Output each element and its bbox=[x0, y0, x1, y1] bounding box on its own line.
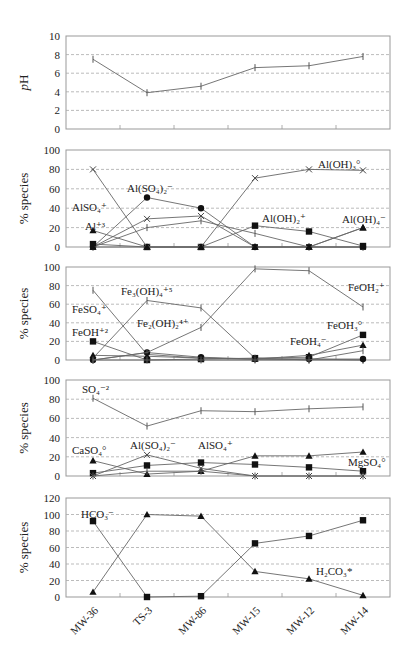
series-line bbox=[93, 290, 363, 360]
species-label: Al(SO₄)₂⁻ bbox=[127, 182, 173, 195]
species-label: Al(SO₄)₂⁻ bbox=[130, 439, 176, 452]
y-tick-label: 40 bbox=[49, 202, 61, 214]
species-label: AlSO₄⁺ bbox=[72, 201, 107, 213]
species-label: FeOH₄⁻ bbox=[290, 335, 327, 347]
x-category-label: MW-12 bbox=[284, 604, 317, 637]
triangle-marker bbox=[89, 588, 96, 594]
square-marker bbox=[252, 461, 258, 467]
y-axis-label: % species bbox=[16, 173, 31, 225]
y-tick-label: 100 bbox=[44, 374, 61, 386]
species-label: FeOH₃° bbox=[327, 319, 362, 331]
y-tick-label: 80 bbox=[49, 393, 61, 405]
species-label: SO₄⁻² bbox=[82, 383, 110, 395]
square-marker bbox=[306, 228, 312, 234]
species-label: HCO₃⁻ bbox=[81, 508, 114, 520]
species-label: Al(OH)₄⁻ bbox=[342, 213, 386, 226]
series-line bbox=[93, 515, 363, 596]
y-tick-label: 20 bbox=[49, 451, 61, 463]
panel-carbonate: 020406080100120% speciesHCO₃⁻H₂CO₃* bbox=[16, 492, 390, 603]
y-axis-label: % species bbox=[16, 522, 31, 574]
triangle-marker bbox=[143, 511, 150, 517]
species-label: CaSO₄° bbox=[72, 444, 107, 456]
species-label: Al(OH)₂⁺ bbox=[262, 212, 306, 225]
triangle-marker bbox=[359, 448, 366, 454]
y-tick-label: 80 bbox=[49, 163, 61, 175]
series-line bbox=[93, 463, 363, 474]
x-category-label: TS-3 bbox=[130, 604, 154, 628]
y-tick-label: 20 bbox=[49, 575, 61, 587]
y-tick-label: 0 bbox=[55, 354, 61, 366]
y-tick-label: 8 bbox=[55, 49, 61, 61]
series-also4- bbox=[93, 468, 363, 480]
panel-ph: 0246810pH bbox=[16, 30, 390, 135]
square-marker bbox=[360, 332, 366, 338]
y-tick-label: 60 bbox=[49, 542, 61, 554]
series-hco3- bbox=[90, 517, 366, 600]
series-line bbox=[93, 300, 363, 360]
square-marker bbox=[198, 459, 204, 465]
x-marker bbox=[90, 166, 96, 172]
series-line bbox=[93, 56, 363, 92]
y-tick-label: 80 bbox=[49, 280, 61, 292]
y-tick-label: 100 bbox=[44, 261, 61, 273]
y-axis-label: pH bbox=[16, 75, 31, 92]
y-tick-label: 100 bbox=[44, 509, 61, 521]
series-ph bbox=[93, 53, 363, 96]
x-category-label: MW-15 bbox=[230, 604, 263, 637]
square-marker bbox=[306, 464, 312, 470]
species-label: Al⁺³ bbox=[85, 220, 106, 232]
triangle-marker bbox=[89, 457, 96, 463]
species-label: Fe₂(OH)₂⁴⁺ bbox=[137, 317, 189, 330]
series-so4-2 bbox=[93, 395, 363, 430]
y-tick-label: 40 bbox=[49, 432, 61, 444]
y-tick-label: 0 bbox=[55, 470, 61, 482]
square-marker bbox=[90, 338, 96, 344]
y-tick-label: 20 bbox=[49, 335, 61, 347]
x-category-label: MW-36 bbox=[68, 604, 101, 637]
y-tick-label: 60 bbox=[49, 183, 61, 195]
x-category-label: MW-14 bbox=[338, 604, 371, 637]
square-marker bbox=[306, 533, 312, 539]
square-marker bbox=[144, 462, 150, 468]
species-label: FeSO₄⁺ bbox=[72, 303, 107, 315]
plot-frame bbox=[66, 36, 390, 129]
y-tick-label: 2 bbox=[55, 104, 61, 116]
panel-iron: 020406080100% speciesFe₃(OH)₄⁺⁵FeSO₄⁺Fe₂… bbox=[16, 261, 390, 366]
series-line bbox=[93, 520, 363, 597]
square-marker bbox=[198, 593, 204, 599]
y-tick-label: 4 bbox=[55, 86, 61, 98]
plot-frame bbox=[66, 267, 390, 360]
square-marker bbox=[360, 517, 366, 523]
speciation-chart: 0246810pH020406080100% speciesAl(SO₄)₂⁻A… bbox=[0, 0, 413, 660]
species-label: FeOH₂⁺ bbox=[348, 281, 385, 293]
series-line bbox=[93, 398, 363, 426]
circle-marker bbox=[198, 205, 204, 211]
series-fe3-oh-4-5 bbox=[93, 297, 363, 364]
x-category-label: MW-86 bbox=[176, 604, 209, 637]
panel-aluminum: 020406080100% speciesAl(SO₄)₂⁻AlSO₄⁺Al⁺³… bbox=[16, 144, 390, 253]
y-tick-label: 100 bbox=[44, 144, 61, 156]
plot-frame bbox=[66, 380, 390, 476]
square-marker bbox=[252, 222, 258, 228]
triangle-marker bbox=[359, 342, 366, 348]
y-tick-label: 80 bbox=[49, 525, 61, 537]
y-tick-label: 0 bbox=[55, 123, 61, 135]
circle-marker bbox=[360, 356, 366, 362]
y-tick-label: 120 bbox=[44, 492, 61, 504]
species-label: H₂CO₃* bbox=[316, 565, 352, 577]
series-line bbox=[93, 198, 363, 247]
species-label: MgSO₄° bbox=[348, 456, 386, 468]
y-tick-label: 6 bbox=[55, 67, 61, 79]
y-tick-label: 0 bbox=[55, 241, 61, 253]
chart-canvas: 0246810pH020406080100% speciesAl(SO₄)₂⁻A… bbox=[0, 0, 413, 660]
circle-marker bbox=[144, 194, 150, 200]
species-label: Fe₃(OH)₄⁺⁵ bbox=[121, 285, 173, 298]
series-line bbox=[93, 452, 363, 474]
y-tick-label: 40 bbox=[49, 558, 61, 570]
y-axis-label: % species bbox=[16, 402, 31, 454]
y-tick-label: 60 bbox=[49, 412, 61, 424]
y-tick-label: 10 bbox=[49, 30, 61, 42]
species-label: Al(OH)₃° bbox=[318, 158, 360, 171]
y-tick-label: 20 bbox=[49, 222, 61, 234]
square-marker bbox=[360, 243, 366, 249]
